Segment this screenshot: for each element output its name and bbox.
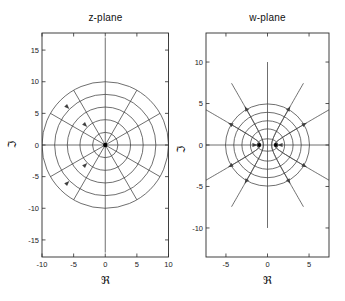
arrowhead xyxy=(286,106,290,112)
ray-line xyxy=(74,90,106,145)
z-plane-title: z-plane xyxy=(42,12,169,23)
x-tick-label: -10 xyxy=(37,260,48,269)
y-tick-label: 0 xyxy=(199,141,203,150)
ray-line xyxy=(50,113,105,145)
w-plane-title: w-plane xyxy=(206,12,329,23)
y-tick-label: -10 xyxy=(192,224,203,233)
x-tick-label: 0 xyxy=(103,260,107,269)
w-plane-curves xyxy=(205,62,330,228)
x-tick-label: 0 xyxy=(265,260,269,269)
arrowhead xyxy=(228,163,234,167)
y-tick-label: 15 xyxy=(31,46,39,55)
focus-marker xyxy=(257,143,261,147)
focus-marker xyxy=(274,143,278,147)
hyperbola-curve xyxy=(275,109,330,165)
z-plane-xlabel: ℜ xyxy=(42,274,169,287)
x-tick-label: 5 xyxy=(135,260,139,269)
w-plane-ylabel: ℑ xyxy=(175,143,188,157)
z-plane-ylabel: ℑ xyxy=(6,138,19,152)
ray-line xyxy=(50,145,105,177)
origin-marker xyxy=(103,143,107,147)
arrowhead xyxy=(252,143,257,147)
arrowhead xyxy=(82,122,87,127)
x-tick-label: 10 xyxy=(164,260,172,269)
arrowhead xyxy=(286,178,290,184)
y-tick-label: -5 xyxy=(32,172,39,181)
arrowhead xyxy=(245,178,249,184)
arrowhead xyxy=(64,104,69,109)
w-plane-axes: -505-10-50510 xyxy=(192,33,330,269)
arrowhead xyxy=(301,163,307,167)
ray-line xyxy=(74,145,106,200)
z-plane-axes: -10-50510-15-10-5051015 xyxy=(28,33,173,269)
arrowhead xyxy=(277,143,282,147)
arrowhead xyxy=(82,163,87,168)
x-tick-label: -5 xyxy=(223,260,230,269)
y-tick-label: -10 xyxy=(28,204,39,213)
y-tick-label: 5 xyxy=(35,109,39,118)
hyperbola-curve xyxy=(205,109,260,165)
y-tick-label: 10 xyxy=(195,58,203,67)
y-tick-label: 0 xyxy=(35,141,39,150)
w-plane-xlabel: ℜ xyxy=(206,274,329,287)
plot-canvas: -10-50510-15-10-5051015-505-10-50510 xyxy=(0,0,345,301)
arrowhead xyxy=(301,123,307,127)
y-tick-label: 10 xyxy=(31,77,39,86)
figure: -10-50510-15-10-5051015-505-10-50510 z-p… xyxy=(0,0,345,301)
ray-line xyxy=(105,90,137,145)
x-tick-label: 5 xyxy=(307,260,311,269)
ray-line xyxy=(105,145,160,177)
y-tick-label: -15 xyxy=(28,236,39,245)
y-tick-label: -5 xyxy=(196,182,203,191)
arrowhead xyxy=(64,181,69,186)
arrowhead xyxy=(228,123,234,127)
y-tick-label: 5 xyxy=(199,99,203,108)
ray-line xyxy=(105,113,160,145)
ray-line xyxy=(105,145,137,200)
x-tick-label: -5 xyxy=(70,260,77,269)
arrowhead xyxy=(245,106,249,112)
